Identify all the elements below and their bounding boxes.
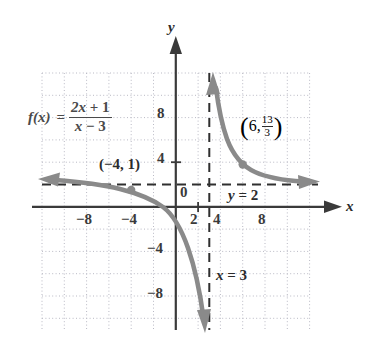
- point-close-paren: ): [274, 117, 283, 138]
- point-open-paren: (: [240, 117, 249, 138]
- y-axis-name: y: [168, 20, 175, 35]
- y-tick-label-neg8: −8: [147, 286, 163, 301]
- curve-left-branch: [55, 180, 204, 318]
- vertical-asymptote-equation: = 3: [227, 267, 247, 283]
- function-name: f(x): [28, 109, 51, 126]
- x-axis-name: x: [346, 199, 354, 214]
- horizontal-asymptote-variable: y: [228, 187, 235, 203]
- fraction-denominator: x − 3: [73, 118, 108, 135]
- y-tick-label-4: 4: [157, 151, 165, 166]
- rational-function-figure: f(x) = 2x + 1 x − 3 8 4 −4 −8 0 −8 −4 2 …: [0, 0, 366, 360]
- denominator-term-b: − 3: [86, 118, 106, 134]
- numerator-term-b: + 1: [90, 99, 110, 115]
- plot-dot-left: [127, 186, 135, 194]
- x-axis-arrowhead: [324, 201, 342, 213]
- point-x-value: 6,: [249, 117, 261, 135]
- horizontal-asymptote-equation: = 2: [238, 187, 258, 203]
- x-tick-label-2: 2: [190, 212, 198, 227]
- x-tick-label-neg4: −4: [121, 212, 137, 227]
- y-tick-label-neg4: −4: [147, 241, 163, 256]
- point-y-fraction: 13 3: [262, 114, 273, 138]
- function-fraction: 2x + 1 x − 3: [69, 100, 112, 135]
- point-fraction-numerator: 13: [262, 114, 273, 126]
- y-axis-arrowhead: [170, 36, 182, 54]
- x-tick-label-8: 8: [258, 212, 266, 227]
- numerator-term-a: 2x: [71, 99, 86, 115]
- denominator-term-a: x: [75, 118, 83, 134]
- plot-dot-right: [239, 160, 247, 168]
- x-tick-label-neg8: −8: [76, 212, 92, 227]
- right-branch-arrow-right: [298, 175, 320, 189]
- origin-label: 0: [180, 185, 188, 200]
- function-expression-label: f(x) = 2x + 1 x − 3: [28, 100, 112, 135]
- right-branch-arrow-up: [206, 72, 220, 95]
- function-equals-sign: =: [57, 109, 66, 126]
- y-tick-label-8: 8: [157, 106, 165, 121]
- horizontal-asymptote-label: y = 2: [228, 188, 258, 203]
- point-right-branch-label: ( 6, 13 3 ): [240, 114, 282, 138]
- point-fraction-denominator: 3: [264, 127, 270, 139]
- graph-canvas: [0, 0, 366, 360]
- vertical-asymptote-label: x = 3: [216, 268, 247, 283]
- x-tick-label-4: 4: [213, 212, 221, 227]
- fraction-numerator: 2x + 1: [69, 100, 112, 117]
- vertical-asymptote-variable: x: [216, 267, 224, 283]
- point-left-branch-label: (−4, 1): [99, 157, 140, 172]
